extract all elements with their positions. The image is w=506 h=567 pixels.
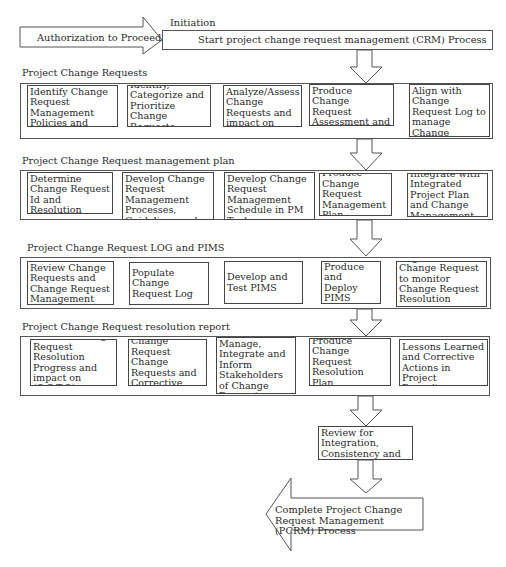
down-arrow-2 (350, 139, 382, 170)
step-text: Produce and Deploy PIMS (324, 262, 378, 304)
step-text: Document Lessons Learned and Corrective … (402, 339, 485, 386)
step-box: Identify, Categorize and Prioritize Chan… (127, 85, 211, 127)
down-arrow-1 (350, 50, 382, 83)
start-process-label: Start project change request management … (198, 34, 487, 45)
step-text: Integrate with Integrated Project Plan a… (410, 173, 485, 217)
step-box: Manage, Integrate and Inform Stakeholder… (216, 337, 296, 394)
step-box: Monitor Change Request Resolution Progre… (30, 339, 117, 386)
down-arrow-5 (350, 396, 382, 426)
step-box: Identify Change Request Management Polic… (27, 85, 118, 127)
step-box: Review Change Requests and Change Reques… (27, 261, 114, 305)
step-text: Monitor Change Request Resolution Progre… (33, 339, 114, 386)
phase-title: Project Change Request management plan (22, 155, 235, 166)
step-box: Develop and Test PIMS (224, 261, 303, 304)
step-box: Integrate with Integrated Project Plan a… (407, 173, 488, 217)
step-box: Determine Change Request Id and Resoluti… (27, 172, 113, 214)
step-box: Analyze/Assess Change Requests and impac… (223, 85, 302, 127)
step-box: Align with Change Request Log to manage … (409, 84, 490, 137)
completion-arrow-label: Complete Project Change Request Manageme… (275, 505, 425, 537)
step-box: Produce Change Request Resolution Plan (309, 338, 391, 386)
step-box: Generate Change Request Change Requests … (128, 339, 207, 386)
step-text: Align with Change Request to monitor Cha… (399, 261, 484, 307)
step-box: Produce and Deploy PIMS (321, 261, 381, 304)
down-arrow-6 (350, 460, 382, 493)
review-box: Review for Integration, Consistency and … (318, 426, 413, 460)
step-box: Produce Change Request Management Plan (319, 173, 392, 216)
step-text: Produce Change Request Management Plan (322, 173, 389, 216)
step-box: Develop Change Request Management Schedu… (224, 172, 315, 220)
authorization-arrow-label: Authorization to Proceed (37, 32, 161, 43)
step-box: Document Lessons Learned and Corrective … (399, 339, 488, 386)
step-text: Populate Change Request Log (132, 268, 206, 299)
step-text: Develop and Test PIMS (227, 272, 300, 293)
down-arrow-4 (350, 309, 382, 336)
initiation-label: Initiation (170, 17, 216, 28)
down-arrow-3 (350, 220, 382, 256)
step-text: Identify, Categorize and Prioritize Chan… (130, 85, 208, 127)
step-box: Populate Change Request Log (129, 262, 209, 305)
step-box: Align with Change Request to monitor Cha… (396, 261, 487, 307)
step-text: Produce Change Request Resolution Plan (312, 338, 388, 386)
step-box: Produce Change Request Assessment and Re… (309, 84, 394, 126)
step-text: Generate Change Request Change Requests … (131, 339, 204, 386)
phase-title: Project Change Request resolution report (22, 321, 230, 332)
phase-title: Project Change Requests (22, 67, 147, 78)
phase-title: Project Change Request LOG and PIMS (27, 242, 225, 253)
step-box: Develop Change Request Management Proces… (122, 172, 214, 220)
